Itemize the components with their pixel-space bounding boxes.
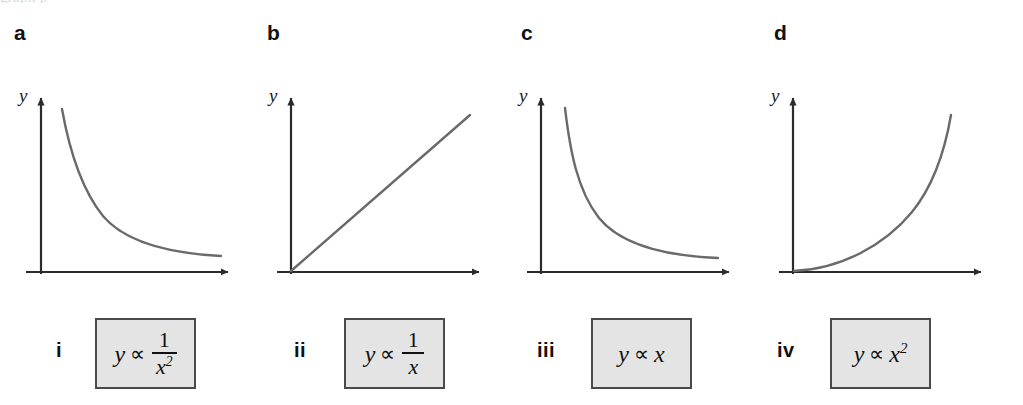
panel-a-plot: y x — [0, 42, 250, 282]
formula-box-ii[interactable]: y ∝ 1 x — [344, 318, 445, 389]
formula-item-iii: iii y ∝ x — [537, 310, 697, 396]
formula-i-numerator: 1 — [155, 328, 174, 351]
panel-c: c y x — [507, 22, 757, 282]
formula-ii-denominator: x — [404, 355, 422, 379]
formula-numeral-i: i — [56, 340, 62, 360]
formula-iv-rhs-base: x — [889, 341, 900, 367]
formula-numeral-ii: ii — [294, 340, 306, 360]
formula-i-fraction: 1 x2 — [152, 328, 177, 379]
formula-expression-iii: y ∝ x — [618, 342, 664, 366]
formula-iv-lhs: y — [854, 342, 865, 366]
formula-iv-rhs-exponent: 2 — [900, 340, 907, 356]
formula-i-denominator-base: x — [156, 354, 166, 379]
page-text-bleed: graph p — [0, 0, 1023, 3]
formula-i-denominator: x2 — [152, 355, 177, 379]
panel-a-curve — [62, 109, 221, 256]
formula-item-i: i y ∝ 1 x2 — [56, 310, 206, 396]
proportional-icon: ∝ — [380, 344, 395, 365]
formula-iii-lhs: y — [618, 342, 629, 366]
panel-c-plot: y x — [507, 42, 757, 282]
formula-expression-ii: y ∝ 1 x — [365, 328, 425, 379]
formula-numeral-iii: iii — [537, 340, 555, 360]
panel-d-curve — [794, 115, 951, 271]
formula-box-iv[interactable]: y ∝ x2 — [830, 318, 931, 389]
panel-d: d y x — [760, 22, 1010, 282]
panel-a-label: a — [14, 22, 26, 43]
panel-d-plot: y x — [760, 42, 1015, 282]
figure-container: graph p a y x b — [0, 0, 1023, 405]
formula-ii-numerator: 1 — [404, 328, 423, 351]
panel-b-label: b — [267, 22, 280, 43]
panel-a-x-label: x — [232, 278, 242, 282]
proportional-icon: ∝ — [130, 344, 145, 365]
formula-box-iii[interactable]: y ∝ x — [591, 318, 692, 389]
formula-item-ii: ii y ∝ 1 x — [294, 310, 444, 396]
panel-b-x-label: x — [483, 278, 493, 282]
panel-d-label: d — [774, 22, 787, 43]
panel-a: a y x — [0, 22, 250, 282]
panel-b-curve — [291, 115, 470, 271]
panel-d-y-label: y — [769, 85, 780, 106]
formula-item-iv: iv y ∝ x2 — [777, 310, 937, 396]
panel-b-y-label: y — [267, 85, 278, 106]
formula-ii-lhs: y — [365, 342, 376, 366]
formula-i-denominator-exponent: 2 — [166, 354, 173, 369]
panel-b-plot: y x — [253, 42, 503, 282]
panel-b: b y x — [253, 22, 503, 282]
proportional-icon: ∝ — [869, 344, 884, 365]
formula-expression-iv: y ∝ x2 — [854, 342, 908, 366]
panel-c-curve — [565, 108, 718, 258]
panel-c-label: c — [521, 22, 533, 43]
formula-iv-rhs: x2 — [889, 342, 907, 366]
proportional-icon: ∝ — [634, 344, 649, 365]
formula-expression-i: y ∝ 1 x2 — [114, 328, 176, 379]
formula-box-i[interactable]: y ∝ 1 x2 — [95, 318, 196, 389]
panel-d-x-label: x — [985, 278, 995, 282]
panel-c-y-label: y — [517, 85, 528, 106]
panel-c-x-label: x — [733, 278, 743, 282]
formula-ii-fraction: 1 x — [402, 328, 424, 379]
panel-a-y-label: y — [17, 85, 28, 106]
formula-i-lhs: y — [114, 342, 125, 366]
formula-iii-rhs: x — [654, 342, 665, 366]
formula-numeral-iv: iv — [777, 340, 795, 360]
